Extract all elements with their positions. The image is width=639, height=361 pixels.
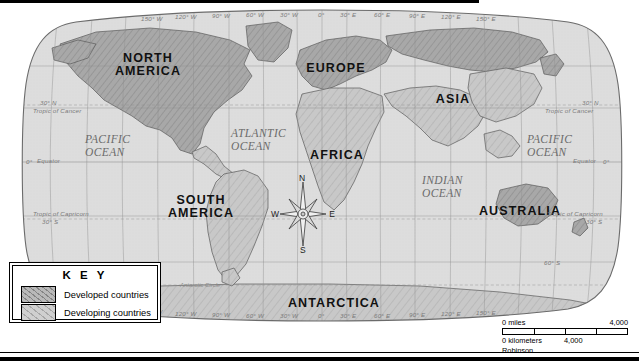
- latitude-label-right-30n: 30° N: [582, 99, 599, 106]
- longitude-label-bottom-150e: 150° E: [476, 309, 496, 316]
- latitude-label-left-0: 0°: [26, 158, 32, 165]
- projection-label: Robinson: [502, 346, 628, 355]
- frame-top-notch: [479, 0, 639, 12]
- scale-miles-value: 4,000: [610, 318, 629, 327]
- ocean-label-pacific-west: PACIFIC OCEAN: [85, 133, 130, 159]
- key-item-developing: Developing countries: [21, 304, 151, 321]
- longitude-label-top-90w: 90° W: [212, 12, 230, 19]
- longitude-label-top-120e: 120° E: [441, 13, 461, 20]
- longitude-label-bottom-60w: 60° W: [246, 312, 264, 319]
- longitude-label-top-150e: 150° E: [476, 15, 496, 22]
- compass-south-label: S: [300, 245, 306, 255]
- compass-rose: N S W E: [272, 174, 334, 254]
- scale-bar-track: [502, 328, 628, 335]
- key-title: K E Y: [13, 269, 157, 281]
- continent-label-antarctica: ANTARCTICA: [278, 297, 390, 310]
- longitude-label-top-30e: 30° E: [340, 11, 356, 18]
- map-key: K E Y Developed countries Developing cou…: [9, 262, 161, 323]
- antarctic-circle-label: Antarctic Circle: [180, 282, 220, 288]
- key-swatch-developing: [21, 304, 56, 321]
- compass-east-label: E: [329, 209, 335, 219]
- longitude-label-bottom-90e: 90° E: [409, 311, 425, 318]
- latitude-label-right-0: 0°: [603, 158, 609, 165]
- longitude-label-bottom-0: 0°: [318, 312, 324, 319]
- scale-tick-2: [565, 329, 566, 334]
- ocean-label-atlantic: ATLANTIC OCEAN: [231, 127, 286, 153]
- longitude-label-bottom-30e: 30° E: [340, 312, 356, 319]
- frame-bottom-rule: [0, 357, 639, 361]
- latitude-label-left-30s: 30° S: [42, 218, 58, 225]
- scale-km-value: 4,000: [564, 336, 583, 345]
- frame-bottom-rule-thin: [0, 352, 639, 353]
- ocean-label-pacific-east: PACIFIC OCEAN: [527, 133, 572, 159]
- latitude-label-right-60s: 60° S: [544, 259, 560, 266]
- longitude-label-top-150w: 150° W: [141, 15, 163, 22]
- latitude-label-left-tropic-cancer: Tropic of Cancer: [33, 107, 81, 114]
- longitude-label-bottom-30w: 30° W: [280, 312, 298, 319]
- latitude-label-right-tropic-cancer: Tropic of Cancer: [545, 107, 593, 114]
- world-map-figure: NORTH AMERICA SOUTH AMERICA EUROPE AFRIC…: [0, 0, 639, 361]
- longitude-label-bottom-90w: 90° W: [212, 311, 230, 318]
- longitude-label-top-60w: 60° W: [246, 11, 264, 18]
- longitude-label-top-120w: 120° W: [175, 13, 197, 20]
- compass-needle-icon: [272, 174, 334, 254]
- scale-bar-group: 0 miles 4,000 0 kilometers 4,000 Robinso…: [502, 318, 628, 355]
- ocean-label-indian: INDIAN OCEAN: [422, 174, 463, 200]
- latitude-label-right-equator: Equator: [573, 157, 596, 164]
- longitude-label-bottom-120e: 120° E: [441, 310, 461, 317]
- longitude-label-top-0: 0°: [318, 11, 324, 18]
- longitude-label-top-30w: 30° W: [280, 11, 298, 18]
- key-swatch-developed: [21, 286, 56, 303]
- key-item-developed: Developed countries: [21, 286, 149, 303]
- compass-north-label: N: [299, 173, 305, 183]
- key-label-developing: Developing countries: [64, 308, 151, 318]
- longitude-label-top-60e: 60° E: [374, 11, 390, 18]
- scale-km-label: 0 kilometers: [502, 336, 564, 345]
- longitude-label-top-90e: 90° E: [409, 12, 425, 19]
- longitude-label-bottom-120w: 120° W: [175, 310, 197, 317]
- continent-label-north-america: NORTH AMERICA: [113, 52, 183, 78]
- key-label-developed: Developed countries: [64, 290, 149, 300]
- scale-miles-label: 0 miles: [502, 318, 525, 327]
- compass-west-label: W: [271, 209, 279, 219]
- longitude-label-bottom-60e: 60° E: [374, 312, 390, 319]
- latitude-label-right-30s: 30° S: [586, 218, 602, 225]
- latitude-label-left-tropic-capricorn: Tropic of Capricorn: [33, 210, 89, 217]
- scale-tick-3: [596, 329, 597, 334]
- latitude-label-left-30n: 30° N: [40, 99, 57, 106]
- continent-label-europe: EUROPE: [303, 62, 369, 75]
- latitude-label-right-tropic-capricorn: Tropic of Capricorn: [547, 210, 603, 217]
- latitude-label-left-equator: Equator: [37, 157, 60, 164]
- continent-label-africa: AFRICA: [306, 149, 368, 162]
- continent-label-south-america: SOUTH AMERICA: [166, 194, 236, 220]
- scale-tick-1: [534, 329, 535, 334]
- continent-label-asia: ASIA: [428, 93, 478, 106]
- frame-top-rule: [0, 0, 480, 3]
